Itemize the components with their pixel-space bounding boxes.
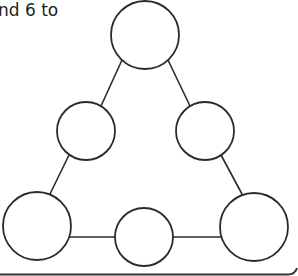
circle-mid-left[interactable] bbox=[57, 102, 115, 160]
triangle-circle-diagram bbox=[0, 0, 298, 276]
bottom-border bbox=[0, 268, 297, 275]
circle-mid-right[interactable] bbox=[176, 102, 234, 160]
circle-bottom-mid[interactable] bbox=[115, 208, 173, 266]
edge-midleft-bottomleft bbox=[50, 155, 69, 194]
circle-top[interactable] bbox=[111, 1, 179, 69]
circle-bottom-left[interactable] bbox=[3, 192, 71, 260]
edge-top-midleft bbox=[101, 60, 122, 106]
edge-midright-bottomright bbox=[221, 155, 242, 194]
edge-top-midright bbox=[168, 60, 190, 106]
circle-bottom-right[interactable] bbox=[220, 193, 288, 261]
